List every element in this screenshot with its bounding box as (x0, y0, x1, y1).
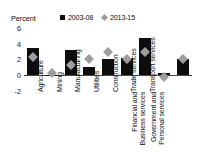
y-tick-label: 6 (17, 24, 21, 33)
x-label-cell: Government andPersonal services (173, 92, 192, 162)
bar-columns (24, 28, 192, 91)
bar-group[interactable] (173, 28, 192, 91)
x-label-cell: Utilities (80, 92, 99, 162)
legend-item-2003-08[interactable]: 2003-08 (60, 13, 93, 22)
x-axis-tick-label: Transport services (149, 37, 157, 92)
y-tick-label: 2 (17, 55, 21, 64)
diamond-marker-icon (101, 14, 108, 21)
chart-container: Percent 2003-08 2013-15 6 4 2 0 -2 Agric… (0, 0, 202, 162)
x-label-cell: Agriculture (24, 92, 43, 162)
x-axis-tick-label: Financial andBusiness services (131, 92, 146, 158)
chart-legend: 2003-08 2013-15 (60, 13, 135, 22)
legend-label: 2013-15 (110, 13, 135, 22)
x-axis-tick-label: Manufacturing (74, 50, 82, 92)
x-axis-tick-label: Agriculture (37, 60, 45, 92)
x-axis-labels: AgricultureMiningManufacturingUtilitiesC… (24, 92, 192, 162)
x-label-cell: Mining (43, 92, 62, 162)
x-axis-tick-label: Trade services (130, 48, 138, 92)
x-axis-tick-label: Utilities (93, 71, 101, 92)
bar-group[interactable] (155, 28, 174, 91)
y-tick-label: -2 (15, 86, 21, 95)
legend-item-2013-15[interactable]: 2013-15 (102, 13, 135, 22)
y-tick-label: 4 (17, 39, 21, 48)
y-axis-unit-label: Percent (11, 14, 36, 23)
plot-area: 6 4 2 0 -2 (24, 28, 192, 91)
legend-label: 2003-08 (68, 13, 93, 22)
x-axis-tick-label: Mining (56, 72, 64, 92)
diamond-marker-utilities[interactable] (84, 54, 94, 64)
y-tick-label: 0 (17, 71, 21, 80)
x-label-cell: Construction (99, 92, 118, 162)
square-marker-icon (60, 15, 65, 20)
x-axis-tick-label: Government andPersonal services (150, 92, 165, 158)
x-axis-tick-label: Construction (112, 55, 120, 93)
x-label-cell: Manufacturing (61, 92, 80, 162)
